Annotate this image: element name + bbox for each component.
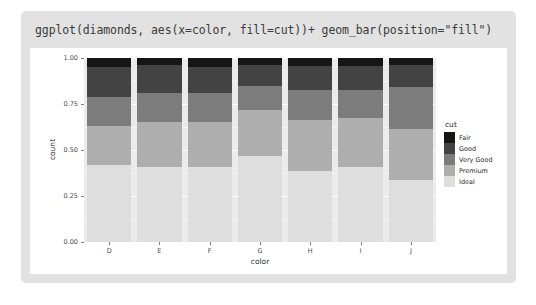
bar-G[interactable] [238,58,282,242]
bar-segment[interactable] [188,167,232,242]
bar-segment[interactable] [288,120,332,172]
bar-segment[interactable] [87,67,131,96]
bar-segment[interactable] [188,67,232,93]
x-tick-label-H: H [295,247,325,255]
plot-title: ggplot(diamonds, aes(x=color, fill=cut))… [35,23,492,37]
x-tick-label-F: F [195,247,225,255]
x-tick-mark [310,242,311,245]
bar-D[interactable] [87,58,131,242]
bar-segment[interactable] [389,129,433,181]
bar-segment[interactable] [389,58,433,65]
bar-segment[interactable] [137,93,181,122]
x-axis-title: color [84,257,436,266]
legend-swatch [444,176,455,187]
bar-segment[interactable] [188,122,232,166]
x-tick-label-D: D [94,247,124,255]
bar-segment[interactable] [288,171,332,242]
legend-label: Premium [459,167,488,175]
y-tick-label: 0.75 [48,100,78,108]
bar-segment[interactable] [87,126,131,165]
legend-item-very-good[interactable]: Very Good [444,154,493,165]
bar-J[interactable] [389,58,433,242]
bar-segment[interactable] [188,93,232,122]
bar-E[interactable] [137,58,181,242]
legend-label: Ideal [459,178,475,186]
legend-label: Very Good [459,156,493,164]
x-tick-label-I: I [346,247,376,255]
legend-swatch [444,132,455,143]
y-tick-label: 1.00 [48,54,78,62]
x-tick-label-G: G [245,247,275,255]
bar-segment[interactable] [238,58,282,65]
bar-segment[interactable] [389,65,433,86]
legend-swatch [444,165,455,176]
y-tick-label: 0.00 [48,238,78,246]
bar-segment[interactable] [188,58,232,67]
bar-F[interactable] [188,58,232,242]
bar-segment[interactable] [87,58,131,67]
bar-segment[interactable] [137,122,181,166]
legend-item-ideal[interactable]: Ideal [444,176,493,187]
bar-segment[interactable] [238,110,282,156]
legend-label: Good [459,145,476,153]
bar-segment[interactable] [137,58,181,65]
legend-item-good[interactable]: Good [444,143,493,154]
y-tick-label: 0.25 [48,192,78,200]
x-tick-mark [159,242,160,245]
bar-segment[interactable] [137,65,181,93]
bar-segment[interactable] [338,90,382,118]
legend-items: FairGoodVery GoodPremiumIdeal [444,132,493,187]
bar-segment[interactable] [87,165,131,242]
bar-I[interactable] [338,58,382,242]
x-tick-label-E: E [144,247,174,255]
bar-segment[interactable] [389,180,433,242]
legend-swatch [444,154,455,165]
bar-segment[interactable] [288,58,332,66]
bar-segment[interactable] [288,66,332,90]
bar-segment[interactable] [288,90,332,119]
bar-segment[interactable] [137,167,181,242]
x-tick-mark [361,242,362,245]
bar-segment[interactable] [338,66,382,90]
bar-segment[interactable] [238,65,282,85]
x-tick-mark [210,242,211,245]
legend-title: cut [444,120,493,129]
legend: cut FairGoodVery GoodPremiumIdeal [444,120,493,187]
figure-card: ggplot(diamonds, aes(x=color, fill=cut))… [21,11,516,283]
x-tick-mark [260,242,261,245]
legend-label: Fair [459,134,471,142]
bar-segment[interactable] [338,167,382,242]
bar-H[interactable] [288,58,332,242]
bar-segment[interactable] [238,86,282,111]
y-tick-label: 0.50 [48,146,78,154]
bar-segment[interactable] [338,118,382,167]
legend-item-fair[interactable]: Fair [444,132,493,143]
bar-segment[interactable] [389,87,433,129]
bar-segment[interactable] [338,58,382,66]
x-tick-label-J: J [396,247,426,255]
legend-swatch [444,143,455,154]
x-tick-mark [109,242,110,245]
legend-item-premium[interactable]: Premium [444,165,493,176]
bar-segment[interactable] [87,97,131,126]
plot-area: count 0.000.250.500.751.00 DEFGHIJ color… [30,48,507,274]
bar-segment[interactable] [238,156,282,242]
plot-panel [84,58,436,242]
x-tick-mark [411,242,412,245]
